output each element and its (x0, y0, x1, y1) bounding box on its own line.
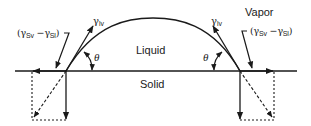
left-resultant-dashed-arrow (34, 71, 66, 117)
left-gamma-lv-arrow (66, 26, 93, 71)
liquid-label: Liquid (136, 45, 165, 56)
lv-subscript: lv (217, 20, 222, 27)
close-paren: ) (289, 25, 293, 36)
left-theta-arc (84, 52, 92, 70)
left-contact-forces (32, 26, 93, 120)
close-paren: ) (56, 27, 60, 38)
sv-subscript: Sv (259, 30, 267, 37)
right-difference-label: (γSv −γSl) (250, 26, 292, 37)
left-theta-label: θ (94, 52, 99, 63)
right-theta-arc (214, 52, 222, 70)
contact-angle-diagram: Vapor Liquid Solid γlv θ (γSv −γSl) γlv … (0, 0, 311, 126)
vapor-label: Vapor (245, 7, 274, 18)
right-gamma-lv-label: γlv (211, 16, 222, 27)
right-theta-label: θ (203, 52, 208, 63)
solid-label: Solid (140, 79, 164, 90)
sv-subscript: Sv (26, 32, 34, 39)
right-resultant-dashed-arrow (240, 71, 272, 117)
right-gamma-lv-arrow (213, 26, 240, 71)
left-gamma-lv-label: γlv (93, 16, 104, 27)
minus-sign: − (34, 27, 45, 38)
right-contact-forces (213, 26, 274, 120)
left-difference-label: (γSv −γSl) (17, 28, 59, 39)
lv-subscript: lv (99, 20, 104, 27)
diagram-canvas (0, 0, 311, 126)
minus-sign: − (267, 25, 278, 36)
